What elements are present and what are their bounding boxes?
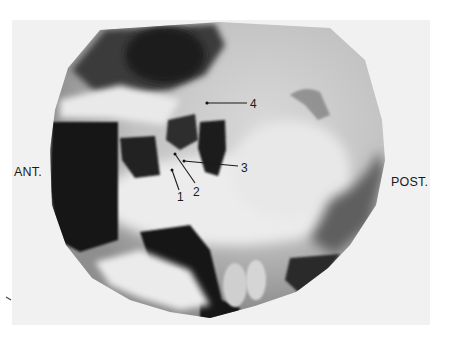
radiograph-figure: 4 3 2 1 ANT. POST. xyxy=(0,0,451,340)
callout-1-label: 1 xyxy=(177,190,184,204)
stray-mark xyxy=(6,297,11,300)
callout-2-label: 2 xyxy=(193,185,200,199)
callout-4-label: 4 xyxy=(250,97,257,111)
posterior-label: POST. xyxy=(391,175,428,189)
anterior-label: ANT. xyxy=(14,165,42,179)
callout-3-label: 3 xyxy=(241,161,248,175)
